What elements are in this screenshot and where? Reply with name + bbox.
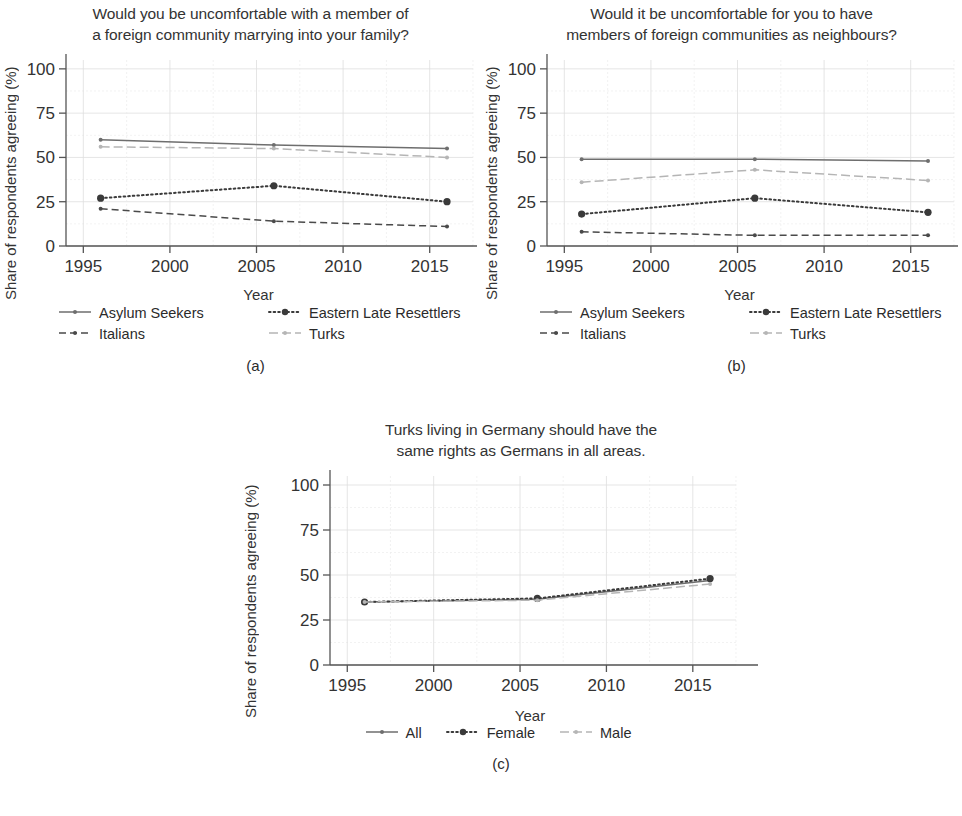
legend-item-turks[interactable]: Turks bbox=[749, 325, 959, 344]
svg-text:2005: 2005 bbox=[501, 676, 539, 695]
svg-text:0: 0 bbox=[310, 656, 319, 675]
legend-line-icon bbox=[749, 326, 783, 342]
panel-a-caption: (a) bbox=[30, 357, 481, 374]
legend-line-icon bbox=[58, 326, 92, 342]
figure-panel-a: Would you be uncomfortable with a member… bbox=[0, 0, 481, 400]
svg-text:2005: 2005 bbox=[719, 257, 757, 276]
panel-b-x-axis-label: Year bbox=[517, 286, 962, 303]
figure-panel-b: Would it be uncomfortable for you to hav… bbox=[481, 0, 962, 400]
svg-text:2015: 2015 bbox=[411, 257, 449, 276]
panel-b-plot-area: Share of respondents agreeing (%) 025507… bbox=[481, 46, 962, 286]
svg-text:2010: 2010 bbox=[588, 676, 626, 695]
panel-a-plot-area: Share of respondents agreeing (%) 025507… bbox=[0, 46, 481, 286]
panel-c-plot-area: Share of respondents agreeing (%) 025507… bbox=[240, 462, 762, 707]
legend-item-turks[interactable]: Turks bbox=[268, 325, 478, 344]
legend-label: Italians bbox=[99, 325, 145, 344]
legend-item-italians[interactable]: Italians bbox=[58, 325, 268, 344]
legend-line-icon bbox=[559, 725, 593, 741]
legend-label: Asylum Seekers bbox=[580, 304, 685, 323]
legend-item-female[interactable]: Female bbox=[446, 724, 541, 743]
legend-item-eastern-late-resettlers[interactable]: Eastern Late Resettlers bbox=[268, 304, 478, 323]
svg-text:2015: 2015 bbox=[892, 257, 930, 276]
panel-a-legend: Asylum SeekersEastern Late ResettlersIta… bbox=[58, 303, 478, 345]
svg-text:2015: 2015 bbox=[674, 676, 712, 695]
legend-line-icon bbox=[749, 305, 783, 321]
panel-c-legend: AllFemaleMale bbox=[240, 724, 762, 743]
panel-b-svg: 025507510019952000200520102015 bbox=[481, 46, 962, 286]
legend-item-all[interactable]: All bbox=[365, 724, 428, 743]
legend-item-male[interactable]: Male bbox=[559, 724, 637, 743]
panel-c-x-axis-label: Year bbox=[298, 707, 762, 724]
panel-a-y-axis-label: Share of respondents agreeing (%) bbox=[2, 46, 19, 320]
legend-line-icon bbox=[539, 326, 573, 342]
svg-text:2005: 2005 bbox=[238, 257, 276, 276]
legend-line-icon bbox=[539, 305, 573, 321]
svg-text:50: 50 bbox=[517, 148, 536, 167]
legend-item-asylum-seekers[interactable]: Asylum Seekers bbox=[58, 304, 268, 323]
legend-label: Asylum Seekers bbox=[99, 304, 204, 323]
panel-b-legend: Asylum SeekersEastern Late ResettlersIta… bbox=[539, 303, 959, 345]
legend-line-icon bbox=[446, 725, 480, 741]
panel-a-x-axis-label: Year bbox=[36, 286, 481, 303]
legend-label: Eastern Late Resettlers bbox=[309, 304, 461, 323]
svg-text:25: 25 bbox=[300, 611, 319, 630]
panel-a-title: Would you be uncomfortable with a member… bbox=[0, 0, 481, 46]
legend-line-icon bbox=[365, 725, 399, 741]
svg-text:50: 50 bbox=[300, 566, 319, 585]
svg-text:1995: 1995 bbox=[545, 257, 583, 276]
legend-label: Turks bbox=[309, 325, 345, 344]
panel-b-title: Would it be uncomfortable for you to hav… bbox=[481, 0, 962, 46]
svg-text:0: 0 bbox=[527, 237, 536, 256]
svg-text:75: 75 bbox=[36, 104, 55, 123]
svg-text:75: 75 bbox=[517, 104, 536, 123]
panel-c-title: Turks living in Germany should have the … bbox=[240, 416, 762, 462]
svg-text:100: 100 bbox=[291, 476, 319, 495]
legend-line-icon bbox=[268, 326, 302, 342]
svg-text:25: 25 bbox=[36, 193, 55, 212]
legend-label: All bbox=[406, 724, 422, 743]
svg-text:0: 0 bbox=[46, 237, 55, 256]
legend-label: Eastern Late Resettlers bbox=[790, 304, 942, 323]
svg-text:25: 25 bbox=[517, 193, 536, 212]
legend-label: Male bbox=[600, 724, 631, 743]
svg-text:50: 50 bbox=[36, 148, 55, 167]
svg-text:100: 100 bbox=[27, 60, 55, 79]
svg-text:2010: 2010 bbox=[324, 257, 362, 276]
svg-text:100: 100 bbox=[508, 60, 536, 79]
svg-text:75: 75 bbox=[300, 521, 319, 540]
svg-text:2000: 2000 bbox=[151, 257, 189, 276]
figure-panel-c: Turks living in Germany should have the … bbox=[240, 416, 762, 816]
legend-item-italians[interactable]: Italians bbox=[539, 325, 749, 344]
legend-label: Female bbox=[487, 724, 535, 743]
svg-text:2000: 2000 bbox=[632, 257, 670, 276]
svg-text:2010: 2010 bbox=[805, 257, 843, 276]
panel-b-y-axis-label: Share of respondents agreeing (%) bbox=[483, 46, 500, 320]
panel-c-y-axis-label: Share of respondents agreeing (%) bbox=[242, 462, 259, 741]
legend-line-icon bbox=[58, 305, 92, 321]
panel-b-caption: (b) bbox=[511, 357, 962, 374]
panel-a-svg: 025507510019952000200520102015 bbox=[0, 46, 481, 286]
legend-label: Italians bbox=[580, 325, 626, 344]
panel-c-svg: 025507510019952000200520102015 bbox=[240, 462, 762, 707]
legend-item-asylum-seekers[interactable]: Asylum Seekers bbox=[539, 304, 749, 323]
svg-text:2000: 2000 bbox=[415, 676, 453, 695]
svg-text:1995: 1995 bbox=[64, 257, 102, 276]
legend-line-icon bbox=[268, 305, 302, 321]
legend-item-eastern-late-resettlers[interactable]: Eastern Late Resettlers bbox=[749, 304, 959, 323]
legend-label: Turks bbox=[790, 325, 826, 344]
svg-text:1995: 1995 bbox=[328, 676, 366, 695]
panel-c-caption: (c) bbox=[240, 755, 762, 772]
